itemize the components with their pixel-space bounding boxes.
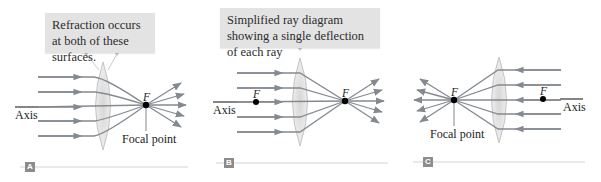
callout-refraction-surfaces: Refraction occurs at both of these surfa… <box>45 13 155 53</box>
panel-badge-a: A <box>25 162 35 172</box>
axis-label: Axis <box>15 109 38 122</box>
focal-point-label: Focal point <box>122 133 176 146</box>
lens-refraction-figure: Refraction occurs at both of these surfa… <box>0 0 601 182</box>
panel-a <box>15 52 188 167</box>
focal-point-label: Focal point <box>430 128 484 141</box>
panel-b <box>213 47 388 163</box>
callout-simplified-diagram: Simplified ray diagram showing a single … <box>220 8 380 48</box>
near-focal-label: F <box>253 88 260 101</box>
near-focal-label: F <box>540 85 547 98</box>
focal-label: F <box>143 91 150 104</box>
axis-label: Axis <box>213 104 236 117</box>
panel-c <box>413 57 585 162</box>
axis-label: Axis <box>563 101 586 114</box>
focal-label: F <box>451 86 458 99</box>
panel-badge-c: C <box>423 157 433 167</box>
panel-badge-b: B <box>224 158 234 168</box>
focal-label: F <box>342 87 349 100</box>
